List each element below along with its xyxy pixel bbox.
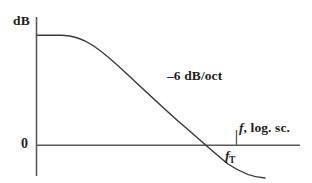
x-axis-title-rest: , log. sc.: [244, 120, 290, 135]
slope-annotation-label: –6 dB/oct: [167, 69, 222, 83]
y-axis-title: dB: [13, 14, 30, 28]
transition-frequency-subscript: T: [229, 155, 235, 165]
bode-plot-figure: dB 0 –6 dB/oct f, log. sc. fT: [0, 0, 312, 183]
y-axis-zero-tick-label: 0: [21, 137, 28, 151]
plot-canvas: [0, 0, 312, 183]
transition-frequency-label: fT: [225, 149, 236, 163]
x-axis-title: f, log. sc.: [239, 121, 290, 135]
